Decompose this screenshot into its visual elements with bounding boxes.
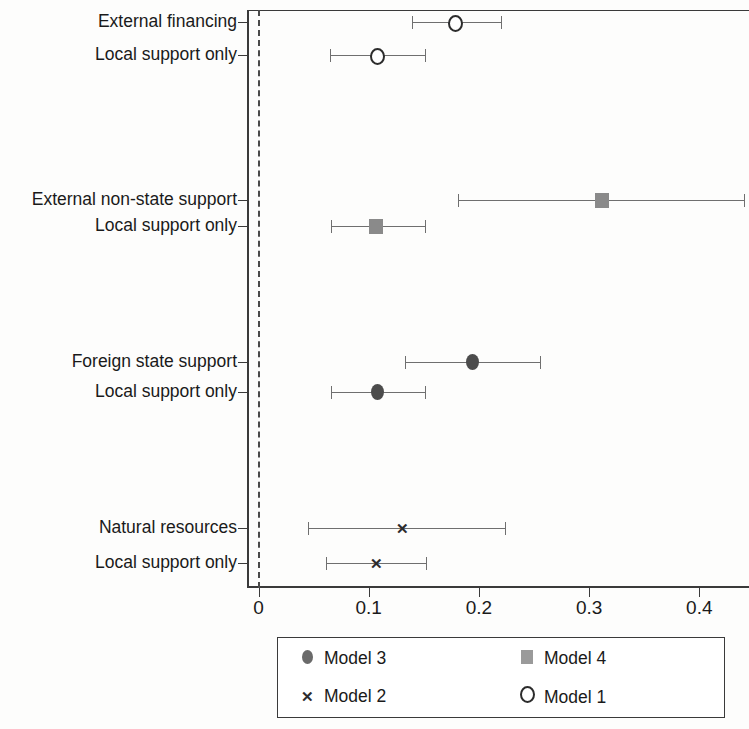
y-axis-tick (238, 55, 247, 56)
y-axis-label: Local support only (95, 44, 237, 64)
ci-upper-cap (505, 522, 506, 535)
legend-label: Model 3 (324, 648, 386, 669)
cross-marker: ✕ (396, 522, 409, 535)
y-axis-tick (238, 563, 247, 564)
y-axis-label: Local support only (95, 552, 237, 572)
y-axis-tick (238, 22, 247, 23)
legend-label: Model 2 (324, 686, 386, 707)
legend-item-2[interactable]: ✕ Model 2 (296, 686, 386, 707)
ci-lower-cap (458, 194, 459, 207)
x-axis-tick-label: 0.4 (669, 596, 729, 620)
ci-upper-cap (426, 557, 427, 570)
y-axis-labels: External financingLocal support onlyExte… (0, 0, 237, 600)
filled-square-marker (595, 193, 609, 208)
y-axis-label: Foreign state support (72, 351, 237, 371)
y-axis-tick (238, 392, 247, 393)
x-axis-tick-label: 0 (229, 596, 289, 620)
legend: Model 3 Model 4 ✕ Model 2 Model 1 (277, 637, 725, 718)
y-axis-label: Local support only (95, 381, 237, 401)
y-axis-tick (238, 362, 247, 363)
y-axis-label: External financing (98, 11, 237, 31)
plot-area (247, 10, 749, 588)
x-axis-tick-label: 0.2 (449, 596, 509, 620)
ci-lower-cap (308, 522, 309, 535)
ci-lower-cap (330, 49, 331, 62)
open-circle-icon (516, 686, 538, 708)
y-axis-label: Natural resources (99, 517, 237, 537)
ci-upper-cap (501, 16, 502, 29)
filled-square-icon (516, 648, 538, 669)
ci-upper-cap (425, 49, 426, 62)
ci-lower-cap (331, 386, 332, 399)
y-axis-label: Local support only (95, 215, 237, 235)
legend-label: Model 4 (544, 648, 606, 669)
ci-upper-cap (540, 356, 541, 369)
y-axis-tick (238, 200, 247, 201)
x-axis-tick-label: 0.3 (559, 596, 619, 620)
ci-lower-cap (331, 220, 332, 233)
ci-upper-cap (744, 194, 745, 207)
legend-label: Model 1 (544, 687, 606, 708)
legend-item-0[interactable]: Model 3 (296, 648, 386, 669)
filled-circle-icon (296, 648, 318, 669)
zero-reference-line (258, 10, 260, 588)
y-axis-tick (238, 226, 247, 227)
legend-item-1[interactable]: Model 4 (516, 648, 606, 669)
filled-circle-marker (371, 384, 384, 400)
y-axis-label: External non-state support (32, 189, 237, 209)
legend-item-3[interactable]: Model 1 (516, 686, 606, 708)
ci-lower-cap (326, 557, 327, 570)
ci-upper-cap (425, 386, 426, 399)
y-axis-tick (238, 528, 247, 529)
ci-lower-cap (405, 356, 406, 369)
ci-lower-cap (412, 16, 413, 29)
filled-square-marker (369, 219, 383, 234)
x-axis-tick-label: 0.1 (339, 596, 399, 620)
cross-marker: ✕ (370, 557, 383, 570)
cross-icon: ✕ (296, 688, 318, 706)
forest-plot-figure: External financingLocal support onlyExte… (0, 0, 749, 729)
open-circle-marker (370, 48, 385, 65)
open-circle-marker (448, 15, 463, 32)
ci-upper-cap (425, 220, 426, 233)
